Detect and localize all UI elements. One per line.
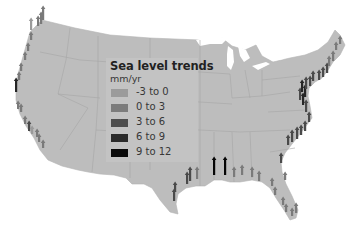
legend-item: 9 to 12	[111, 147, 197, 159]
legend: Sea level trends mm/yr -3 to 0 0 to 3 3 …	[106, 58, 198, 162]
legend-item: 3 to 6	[111, 117, 197, 129]
legend-item: 0 to 3	[111, 102, 197, 114]
legend-swatch	[111, 104, 128, 112]
legend-swatch	[111, 149, 128, 157]
legend-label: -3 to 0	[136, 86, 169, 97]
legend-item: -3 to 0	[111, 87, 197, 99]
sea-level-arrow-icon	[29, 18, 34, 31]
legend-item: 6 to 9	[111, 132, 197, 144]
legend-swatch	[111, 119, 128, 127]
legend-label: 3 to 6	[136, 116, 165, 127]
legend-label: 9 to 12	[136, 146, 171, 157]
legend-title: Sea level trends	[110, 59, 213, 73]
legend-label: 0 to 3	[136, 101, 165, 112]
legend-label: 6 to 9	[136, 131, 165, 142]
legend-swatch	[111, 134, 128, 142]
legend-unit: mm/yr	[110, 73, 141, 84]
legend-swatch	[111, 89, 128, 97]
